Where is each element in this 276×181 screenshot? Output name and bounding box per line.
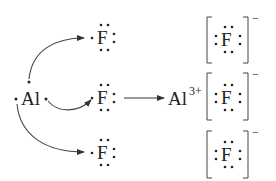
al-cation-charge: 3+ xyxy=(189,84,202,98)
lewis-diagram: Al F F F Al 3+ F xyxy=(0,0,276,181)
f-anion-2: F − xyxy=(207,67,259,120)
al-atom: Al xyxy=(15,81,48,110)
f-anion-symbol: F xyxy=(221,87,232,108)
electron-transfer-arrow-top xyxy=(29,38,84,79)
al-electron-dot xyxy=(15,98,18,101)
al-cation: Al 3+ xyxy=(168,84,202,109)
f-anion-symbol: F xyxy=(221,144,232,165)
al-cation-symbol: Al xyxy=(168,88,187,109)
f-atom-3: F xyxy=(91,139,116,167)
f-atom-1: F xyxy=(91,24,116,52)
f-anion-3: F − xyxy=(207,125,259,178)
electron-transfer-arrow-bottom xyxy=(17,104,84,152)
al-symbol: Al xyxy=(21,88,40,109)
f-anion-charge: − xyxy=(252,11,259,25)
al-electron-dot xyxy=(45,98,48,101)
f-anion-charge: − xyxy=(252,67,259,81)
f-anion-symbol: F xyxy=(221,29,232,50)
f-anion-charge: − xyxy=(252,125,259,139)
f-symbol: F xyxy=(97,142,108,163)
f-symbol: F xyxy=(97,87,108,108)
f-anion-1: F − xyxy=(207,11,259,63)
f-symbol: F xyxy=(97,27,108,48)
f-atom-2: F xyxy=(91,84,116,112)
al-electron-dot xyxy=(28,81,31,84)
electron-transfer-arrow-middle xyxy=(48,100,91,110)
